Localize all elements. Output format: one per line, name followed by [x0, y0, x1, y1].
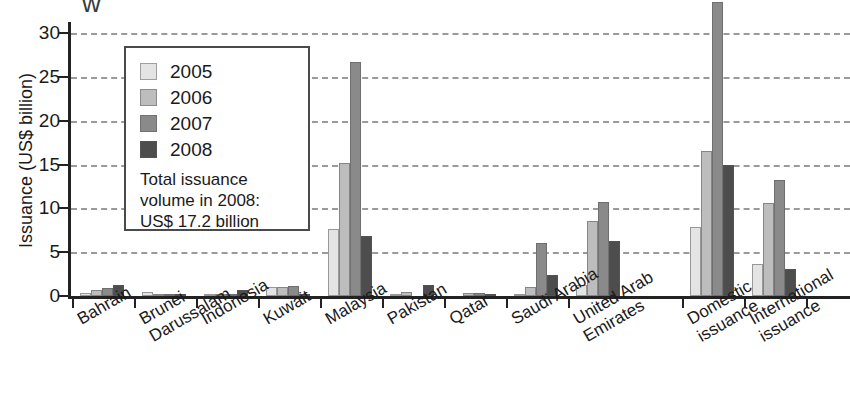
legend-label: 2007: [170, 114, 212, 133]
legend-entries: 2005200620072008: [140, 58, 308, 162]
legend-note-line-2: volume in 2008:: [140, 190, 308, 211]
bar: [723, 165, 734, 297]
y-axis-tick-label: 15: [26, 154, 60, 176]
bar-chart: w Issuance (US$ billion) 051015202530 Ba…: [0, 0, 850, 413]
y-axis-tick: [58, 32, 70, 34]
legend-entry: 2008: [140, 136, 308, 162]
x-axis-tick: [320, 299, 322, 308]
bar-group: [514, 0, 558, 298]
bar: [701, 151, 712, 296]
legend-entry: 2007: [140, 110, 308, 136]
legend-label: 2006: [170, 88, 212, 107]
bar: [80, 293, 91, 297]
y-axis-tick-label: 5: [26, 241, 60, 263]
y-axis-tick-label: 20: [26, 110, 60, 132]
bar: [690, 227, 701, 296]
x-axis-tick: [72, 299, 74, 308]
bar: [328, 229, 339, 297]
legend-note-line-3: US$ 17.2 billion: [140, 211, 308, 232]
y-axis-tick-label: 30: [26, 22, 60, 44]
legend-swatch: [140, 63, 157, 80]
bar: [774, 180, 785, 296]
legend-swatch: [140, 141, 157, 158]
bar: [763, 203, 774, 296]
x-axis-tick: [506, 299, 508, 308]
chart-legend: 2005200620072008 Total issuance volume i…: [124, 46, 310, 231]
y-axis-tick: [58, 207, 70, 209]
legend-label: 2005: [170, 62, 212, 81]
y-axis-tick-label: 25: [26, 66, 60, 88]
bar-group: [80, 0, 124, 298]
legend-entry: 2005: [140, 58, 308, 84]
x-axis-tick: [258, 299, 260, 308]
y-axis-tick-label: 0: [26, 285, 60, 307]
legend-note-line-1: Total issuance: [140, 169, 308, 190]
x-axis-tick: [134, 299, 136, 308]
bar: [142, 292, 153, 296]
x-axis-tick: [444, 299, 446, 308]
y-axis-tick: [58, 120, 70, 122]
x-axis-tick: [682, 299, 684, 308]
bar: [91, 290, 102, 296]
bar: [390, 294, 401, 296]
legend-label: 2008: [170, 140, 212, 159]
bar: [339, 163, 350, 296]
legend-swatch: [140, 89, 157, 106]
bar-group: [576, 0, 620, 298]
y-axis-tick: [58, 76, 70, 78]
y-axis-tick: [58, 295, 70, 297]
bar: [514, 294, 525, 296]
legend-note: Total issuance volume in 2008: US$ 17.2 …: [140, 169, 308, 232]
bar: [712, 2, 723, 296]
bar-group: [690, 0, 734, 298]
x-axis-tick: [568, 299, 570, 308]
bar: [277, 287, 288, 296]
y-axis-tick-label: 10: [26, 197, 60, 219]
y-axis-tick: [58, 251, 70, 253]
x-axis-tick: [382, 299, 384, 308]
bar: [350, 62, 361, 296]
bar-group: [328, 0, 372, 298]
y-axis-tick-labels: 051015202530: [20, 0, 60, 298]
bar: [536, 243, 547, 296]
bar-group: [752, 0, 796, 298]
bar-group: [452, 0, 496, 298]
y-axis-tick: [58, 164, 70, 166]
legend-swatch: [140, 115, 157, 132]
legend-entry: 2006: [140, 84, 308, 110]
bar: [525, 287, 536, 296]
bar-group: [390, 0, 434, 298]
y-axis-line: [68, 22, 71, 298]
